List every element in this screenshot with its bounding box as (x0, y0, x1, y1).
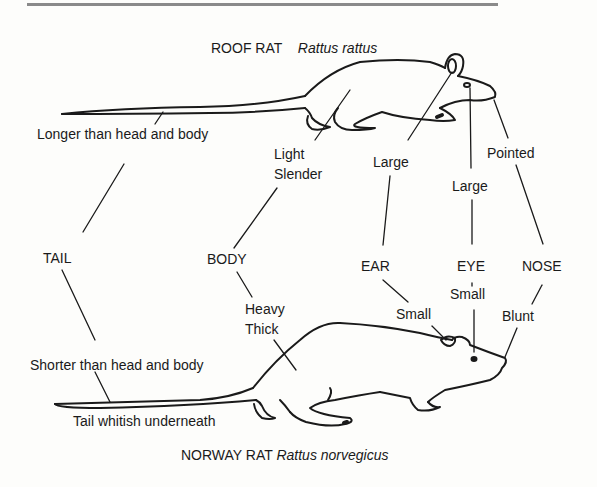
norway-rat-scientific-name: Rattus norvegicus (276, 447, 388, 463)
roof-rat-nose-label: Pointed (487, 145, 534, 161)
roof-rat-scientific-name: Rattus rattus (298, 40, 377, 56)
feature-nose: NOSE (522, 258, 562, 274)
feature-ear: EAR (361, 258, 390, 274)
norway-rat-eye-label: Small (450, 286, 485, 302)
roof-rat-body-line1: Light (274, 146, 304, 162)
roof-rat-body-line2: Slender (274, 166, 322, 182)
feature-tail: TAIL (43, 250, 72, 266)
roof-rat-tail-label: Longer than head and body (37, 126, 208, 142)
norway-rat-tail-note: Tail whitish underneath (73, 413, 215, 429)
roof-rat-eye-label: Large (452, 178, 488, 194)
norway-rat-ear-label: Small (396, 306, 431, 322)
norway-rat-tail-label: Shorter than head and body (30, 357, 204, 373)
norway-rat-title: NORWAY RAT Rattus norvegicus (181, 447, 389, 463)
feature-body: BODY (207, 251, 247, 267)
norway-rat-drawing (55, 323, 506, 426)
norway-rat-common-name: NORWAY RAT (181, 447, 273, 463)
norway-rat-body-line1: Heavy (245, 301, 285, 317)
feature-eye: EYE (457, 258, 485, 274)
roof-rat-common-name: ROOF RAT (211, 40, 282, 56)
roof-rat-title: ROOF RAT Rattus rattus (211, 40, 377, 56)
norway-rat-nose-label: Blunt (502, 308, 534, 324)
roof-rat-ear-label: Large (373, 154, 409, 170)
norway-rat-body-line2: Thick (245, 321, 278, 337)
roof-rat-drawing (62, 54, 495, 130)
